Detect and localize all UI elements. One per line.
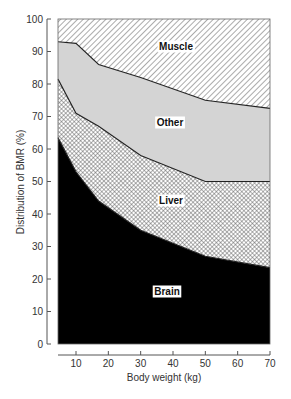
y-tick-label: 10 [32, 306, 44, 317]
x-tick-label: 70 [264, 358, 276, 369]
y-tick-label: 100 [26, 14, 43, 25]
y-tick-label: 0 [37, 339, 43, 350]
y-tick-label: 50 [32, 176, 44, 187]
y-tick-label: 40 [32, 209, 44, 220]
y-tick-label: 70 [32, 111, 44, 122]
svg-text:Other: Other [157, 117, 184, 128]
muscle-label: Muscle [158, 41, 195, 53]
x-tick-label: 30 [135, 358, 147, 369]
y-tick-label: 20 [32, 274, 44, 285]
x-tick-label: 60 [232, 358, 244, 369]
svg-text:Muscle: Muscle [159, 41, 193, 52]
bmr-stacked-area-chart: 010203040506070809010010203040506070Body… [0, 0, 291, 399]
y-tick-label: 30 [32, 241, 44, 252]
svg-text:Brain: Brain [154, 286, 180, 297]
other-label: Other [155, 117, 185, 129]
x-tick-label: 50 [200, 358, 212, 369]
x-axis-title: Body weight (kg) [127, 372, 201, 383]
y-tick-label: 60 [32, 144, 44, 155]
liver-label: Liver [158, 195, 185, 207]
y-tick-label: 80 [32, 79, 44, 90]
x-tick-label: 40 [167, 358, 179, 369]
x-tick-label: 20 [103, 358, 115, 369]
x-tick-label: 10 [70, 358, 82, 369]
brain-label: Brain [153, 286, 182, 298]
svg-text:Liver: Liver [159, 195, 183, 206]
y-axis-title: Distribution of BMR (%) [15, 130, 26, 234]
y-tick-label: 90 [32, 46, 44, 57]
